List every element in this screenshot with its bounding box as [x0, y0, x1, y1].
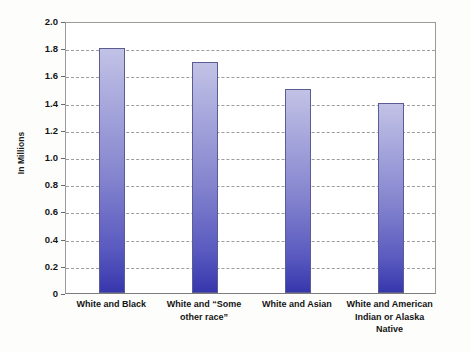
y-axis-tick-label: 0.8: [18, 180, 58, 190]
y-axis-tick-label: 2.0: [18, 17, 58, 27]
y-axis-tick-label: 1.4: [18, 99, 58, 109]
bar[interactable]: [99, 48, 125, 293]
y-axis-tick-label: 1.8: [18, 44, 58, 54]
y-axis-tick-mark: [61, 131, 65, 132]
bar-chart: In Millions 2.01.81.61.41.21.00.80.60.40…: [0, 0, 470, 352]
bar-slot: [344, 23, 437, 293]
y-axis-tick-label: 1.2: [18, 126, 58, 136]
y-axis-tick-label: 0.2: [18, 262, 58, 272]
y-axis-tick-label: 0: [18, 289, 58, 299]
y-axis-tick-labels: 2.01.81.61.41.21.00.80.60.40.20: [18, 22, 58, 294]
x-axis-category-label-line: other race”: [147, 311, 262, 324]
y-axis-tick-label: 0.4: [18, 235, 58, 245]
y-axis-tick-mark: [61, 22, 65, 23]
bar[interactable]: [285, 89, 311, 293]
y-axis-tick-mark: [61, 158, 65, 159]
y-axis-tick-mark: [61, 76, 65, 77]
x-axis-category-labels: White and BlackWhite and “Someother race…: [65, 298, 436, 350]
x-axis-category-label-line: Indian or Alaska: [332, 311, 447, 324]
y-axis-tick-mark: [61, 212, 65, 213]
x-axis-category-label-line: White and American: [332, 298, 447, 311]
y-axis-tick-label: 0.6: [18, 208, 58, 218]
bar[interactable]: [192, 62, 218, 293]
x-axis-category-label-line: Native: [332, 323, 447, 336]
y-axis-tick-mark: [61, 267, 65, 268]
y-axis-tick-label: 1.6: [18, 72, 58, 82]
y-axis-tick-mark: [61, 294, 65, 295]
bar[interactable]: [378, 103, 404, 293]
x-axis-category-label: White and AmericanIndian or AlaskaNative: [332, 298, 447, 336]
plot-area: [65, 22, 436, 294]
y-axis-tick-mark: [61, 104, 65, 105]
bar-slot: [66, 23, 159, 293]
y-axis-tick-label: 1.0: [18, 153, 58, 163]
bar-slot: [252, 23, 345, 293]
bar-slot: [159, 23, 252, 293]
y-axis-tick-mark: [61, 240, 65, 241]
bars-group: [66, 23, 435, 293]
y-axis-tick-mark: [61, 185, 65, 186]
y-axis-tick-mark: [61, 49, 65, 50]
